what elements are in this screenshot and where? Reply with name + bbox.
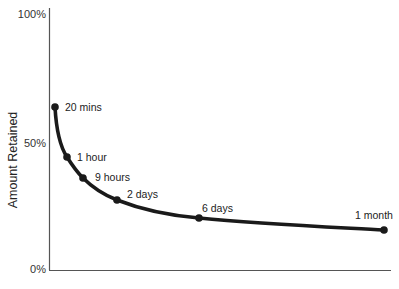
point-label-9-hours: 9 hours [95, 171, 130, 183]
point-label-20-mins: 20 mins [65, 101, 102, 113]
data-point-9-hours [79, 174, 87, 182]
y-tick-50: 50% [24, 137, 46, 149]
data-point-1-hour [63, 153, 71, 161]
point-label-1-month: 1 month [355, 209, 393, 221]
data-point-6-days [195, 214, 203, 222]
y-tick-100: 100% [18, 8, 46, 20]
point-label-1-hour: 1 hour [77, 151, 107, 163]
retention-curve-chart: 100% 50% 0% Amount Retained 20 mins 1 ho… [0, 0, 399, 289]
y-axis-label: Amount Retained [6, 112, 20, 209]
data-point-2-days [113, 196, 121, 204]
y-tick-0: 0% [30, 263, 46, 275]
data-point-1-month [380, 226, 388, 234]
data-point-20-mins [51, 103, 59, 111]
point-label-2-days: 2 days [127, 188, 158, 200]
point-label-6-days: 6 days [202, 202, 233, 214]
